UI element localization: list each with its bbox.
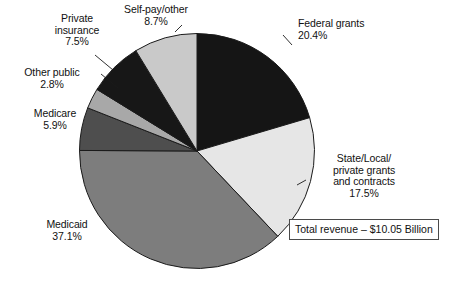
slice-label-state-local: State/Local/ private grants and contract…	[308, 153, 420, 199]
slice-label-medicaid: Medicaid 37.1%	[24, 219, 110, 242]
total-revenue-callout: Total revenue – $10.05 Billion	[289, 219, 439, 240]
leader-line-federal-grants	[283, 35, 292, 45]
slice-label-federal-grants: Federal grants 20.4%	[298, 18, 408, 41]
slice-label-self-pay: Self-pay/other 8.7%	[104, 4, 208, 27]
slice-label-medicare: Medicare 5.9%	[14, 108, 96, 131]
pie-slices-group	[79, 34, 314, 269]
pie-chart-figure: Federal grants 20.4% State/Local/ privat…	[0, 0, 456, 283]
slice-label-other-public: Other public 2.8%	[6, 67, 98, 90]
